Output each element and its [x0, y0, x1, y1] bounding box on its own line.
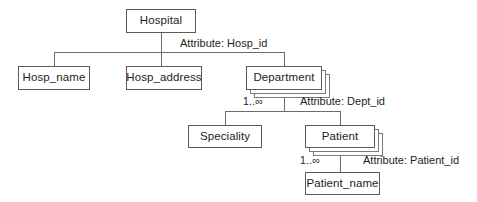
node-speciality[interactable]: Speciality	[188, 125, 262, 148]
node-hosp-address-label: Hosp_address	[126, 72, 201, 84]
node-patient-label: Patient	[322, 131, 359, 143]
node-patient-name-label: Patient_name	[306, 178, 378, 190]
node-hospital[interactable]: Hospital	[126, 9, 196, 33]
node-patient[interactable]: Patient	[305, 125, 375, 148]
annotation-attribute-dept-id: Attribute: Dept_id	[300, 96, 385, 107]
node-hosp-address[interactable]: Hosp_address	[126, 66, 202, 90]
node-department-label: Department	[253, 72, 314, 84]
node-department[interactable]: Department	[246, 66, 322, 90]
connector-to-hosp-address	[161, 52, 162, 66]
node-patient-name[interactable]: Patient_name	[305, 172, 380, 195]
connector-to-hosp-name	[54, 52, 55, 66]
connector-hospital-bus	[54, 52, 285, 53]
annotation-attribute-patient-id: Attribute: Patient_id	[363, 155, 459, 166]
multiplicity-department-speciality: 1..∞	[243, 96, 263, 107]
annotation-attribute-hosp-id: Attribute: Hosp_id	[180, 38, 267, 49]
multiplicity-patient-patient-name: 1..∞	[300, 155, 320, 166]
node-hosp-name-label: Hosp_name	[23, 72, 86, 84]
connector-to-patient	[340, 111, 341, 125]
node-hospital-label: Hospital	[140, 15, 182, 27]
connector-hospital-stem	[161, 33, 162, 52]
node-hosp-name[interactable]: Hosp_name	[18, 66, 90, 90]
hospital-hierarchy-diagram: Hospital Hosp_name Hosp_address Departme…	[0, 0, 477, 202]
node-speciality-label: Speciality	[200, 131, 250, 143]
connector-department-bus	[225, 111, 341, 112]
connector-to-department	[284, 52, 285, 66]
connector-to-speciality	[225, 111, 226, 125]
